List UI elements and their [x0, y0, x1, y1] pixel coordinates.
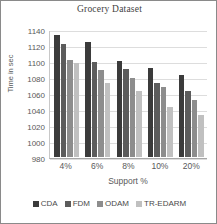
x-axis-tick-labels: 4%6%8%10%20%	[50, 161, 207, 171]
bar-fdm-8	[123, 69, 129, 157]
x-tick-label: 8%	[113, 161, 144, 171]
y-tick-label: 1040	[27, 107, 45, 116]
bar-group	[113, 31, 144, 157]
bar-tr-edarm-6	[105, 83, 111, 157]
bar-cda-10	[148, 68, 154, 157]
legend-label: ODAM	[105, 199, 129, 208]
y-tick-label: 1140	[28, 27, 45, 36]
x-tick-label: 20%	[176, 161, 207, 171]
bar-odam-20	[192, 100, 198, 157]
bar-group	[145, 31, 176, 157]
legend-label: CDA	[41, 199, 58, 208]
chart-title: Grocery Dataset	[1, 4, 217, 14]
legend-swatch-icon	[136, 201, 142, 207]
legend-item-cda[interactable]: CDA	[33, 199, 58, 208]
bar-cda-6	[85, 42, 91, 157]
plot-area	[49, 31, 207, 159]
legend-swatch-icon	[33, 201, 39, 207]
bar-fdm-4	[61, 44, 67, 157]
bar-tr-edarm-4	[74, 63, 80, 157]
gridline	[50, 159, 207, 160]
legend-swatch-icon	[65, 201, 71, 207]
bar-fdm-10	[154, 83, 160, 157]
y-tick-label: 1020	[27, 123, 45, 132]
y-axis-tick-labels: 98010001020104010601080110011201140	[1, 31, 47, 159]
bar-odam-8	[130, 78, 136, 157]
bar-fdm-20	[185, 91, 191, 157]
bar-odam-10	[161, 87, 167, 157]
bar-odam-4	[67, 60, 73, 157]
bar-cda-8	[117, 61, 123, 157]
x-axis-title: Support %	[49, 176, 207, 186]
bar-tr-edarm-10	[167, 107, 173, 157]
y-tick-label: 1060	[27, 91, 45, 100]
y-tick-label: 1080	[27, 75, 45, 84]
legend-item-odam[interactable]: ODAM	[97, 199, 129, 208]
chart-container: Grocery Dataset Time in sec 980100010201…	[0, 0, 217, 224]
y-tick-label: 980	[32, 155, 45, 164]
legend-swatch-icon	[97, 201, 103, 207]
bar-group	[51, 31, 82, 157]
legend-item-fdm[interactable]: FDM	[65, 199, 90, 208]
x-tick-label: 4%	[50, 161, 81, 171]
bar-odam-6	[98, 70, 104, 157]
bar-fdm-6	[92, 62, 98, 157]
y-tick-label: 1120	[28, 43, 45, 52]
y-tick-label: 1000	[27, 139, 45, 148]
legend-label: TR-EDARM	[144, 199, 186, 208]
legend-item-tr-edarm[interactable]: TR-EDARM	[136, 199, 186, 208]
y-tick-label: 1100	[28, 59, 45, 68]
bar-tr-edarm-20	[198, 115, 204, 157]
legend-label: FDM	[73, 199, 90, 208]
bar-cda-20	[179, 75, 185, 157]
bar-group	[176, 31, 207, 157]
chart-legend: CDAFDMODAMTR-EDARM	[1, 199, 217, 208]
bar-cda-4	[54, 35, 60, 157]
x-tick-label: 10%	[144, 161, 175, 171]
bar-group	[82, 31, 113, 157]
bars-layer	[51, 31, 207, 157]
bar-tr-edarm-8	[136, 91, 142, 157]
x-tick-label: 6%	[81, 161, 112, 171]
